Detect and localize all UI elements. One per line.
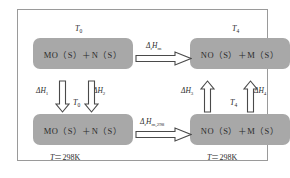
species-box-top-left-label: MO（S）＋N（S） — [44, 48, 122, 60]
enthalpy-symbol: ΔH — [36, 86, 46, 95]
enthalpy-symbol: ΔH — [181, 86, 191, 95]
diagram-frame: MO（S）＋N（S） NO（S）＋M（S） MO（S）＋N（S） NO（S）＋M… — [17, 9, 268, 161]
arrow-down-icon-dh2 — [84, 80, 99, 113]
enthalpy-subscript: 2 — [103, 91, 106, 96]
temperature-label-bottom-right: T＝298K — [207, 151, 237, 162]
arrow-right-icon-bottom — [135, 127, 192, 142]
temperature-label-mid-right: T4 — [230, 98, 237, 107]
temperature-subscript: 4 — [236, 28, 239, 34]
species-box-bottom-left: MO（S）＋N（S） — [33, 114, 133, 145]
temperature-value: ＝298K — [211, 153, 237, 162]
enthalpy-label-dh1: ΔH1 — [36, 86, 48, 95]
enthalpy-subscript: 4 — [264, 91, 267, 96]
species-box-top-left: MO（S）＋N（S） — [33, 38, 133, 69]
temperature-subscript: 4 — [234, 102, 237, 108]
enthalpy-subscript: m — [158, 46, 162, 51]
temperature-label-top-left: T0 — [75, 24, 82, 33]
enthalpy-symbol: H — [152, 41, 157, 50]
enthalpy-symbol: H — [146, 117, 151, 126]
temperature-subscript: 0 — [77, 102, 80, 108]
delta-subscript: r — [144, 122, 146, 127]
species-box-bottom-left-label: MO（S）＋N（S） — [44, 124, 122, 136]
arrow-down-icon-dh1 — [55, 80, 70, 113]
temperature-label-top-right: T4 — [232, 24, 239, 33]
species-box-top-right: NO（S）＋M（S） — [190, 38, 288, 69]
temperature-value: ＝298K — [54, 153, 80, 162]
delta-subscript: r — [150, 46, 152, 51]
temperature-label-mid-left: T0 — [73, 98, 80, 107]
species-box-bottom-right: NO（S）＋M（S） — [190, 114, 288, 145]
enthalpy-subscript: m,298 — [152, 122, 165, 127]
enthalpy-subscript: 1 — [46, 91, 49, 96]
species-box-bottom-right-label: NO（S）＋M（S） — [201, 124, 279, 136]
enthalpy-label-dh3: ΔH3 — [181, 86, 193, 95]
enthalpy-subscript: 3 — [191, 91, 194, 96]
arrow-up-icon-dh4 — [243, 80, 258, 113]
temperature-subscript: 0 — [79, 28, 82, 34]
temperature-label-bottom-left: T＝298K — [50, 151, 80, 162]
enthalpy-label-reaction-bottom: ΔrHm,298 — [140, 117, 164, 126]
species-box-top-right-label: NO（S）＋M（S） — [201, 48, 279, 60]
arrow-up-icon-dh3 — [200, 80, 215, 113]
arrow-right-icon-top — [135, 51, 192, 66]
enthalpy-label-reaction-top: ΔrHm — [146, 41, 161, 50]
